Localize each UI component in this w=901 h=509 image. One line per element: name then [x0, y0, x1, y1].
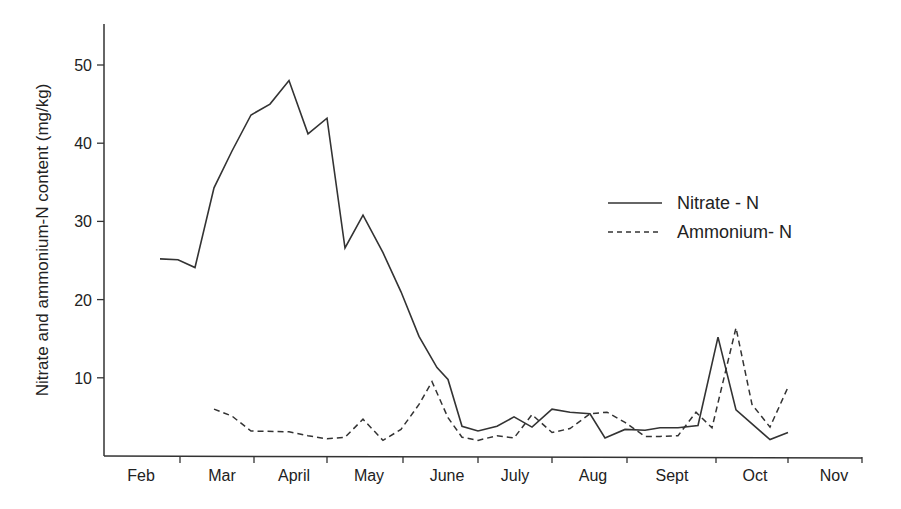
legend: Nitrate - N Ammonium- N: [608, 193, 792, 242]
x-tick-label: April: [278, 467, 310, 484]
x-axis-ticks: FebMarAprilMayJuneJulyAugSeptOctNov: [127, 457, 862, 484]
x-tick-label: May: [354, 467, 384, 484]
y-tick-label: 30: [74, 213, 92, 230]
y-axis-ticks: 1020304050: [74, 57, 104, 387]
x-tick-label: Sept: [656, 467, 689, 484]
x-tick-label: Aug: [579, 467, 607, 484]
legend-label-nitrate: Nitrate - N: [677, 193, 759, 213]
x-tick-label: Feb: [127, 467, 155, 484]
y-tick-label: 20: [74, 292, 92, 309]
y-tick-label: 40: [74, 135, 92, 152]
x-tick-label: July: [501, 467, 529, 484]
legend-label-ammonium: Ammonium- N: [677, 222, 792, 242]
x-tick-label: Mar: [208, 467, 236, 484]
nitrate-line: [160, 81, 788, 440]
x-tick-label: Nov: [820, 467, 848, 484]
x-tick-label: Oct: [743, 467, 768, 484]
x-axis-line: [104, 456, 862, 458]
y-axis-title: Nitrate and ammonium-N content (mg/kg): [33, 84, 52, 397]
y-tick-label: 50: [74, 57, 92, 74]
x-tick-label: June: [430, 467, 465, 484]
y-tick-label: 10: [74, 370, 92, 387]
series-lines: [160, 81, 788, 441]
chart-canvas: 1020304050 FebMarAprilMayJuneJulyAugSept…: [0, 0, 901, 509]
